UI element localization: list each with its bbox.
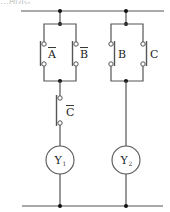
- relay-circuit-diagram: A B C Y 1: [0, 0, 170, 212]
- contact-b: B: [109, 41, 126, 66]
- coil-y1: Y 1: [46, 146, 74, 174]
- junction-dot: [58, 204, 62, 208]
- label-c: C: [150, 48, 158, 61]
- label-a: A: [47, 48, 57, 61]
- contact-c-bar: C: [57, 95, 75, 126]
- label-y2-subscript: 2: [129, 160, 133, 167]
- junction-dot: [124, 9, 128, 13]
- coil-y2: Y 2: [112, 146, 140, 174]
- contact-a-bar: A: [41, 41, 58, 66]
- branch-1: A B C Y 1: [41, 9, 89, 208]
- label-y2: Y: [120, 154, 129, 167]
- label-b-bar: B: [80, 48, 88, 61]
- contact-b-bar: B: [73, 41, 89, 66]
- branch-2: B C Y 2: [109, 9, 159, 208]
- label-y1-subscript: 1: [63, 160, 67, 167]
- junction-dot: [58, 9, 62, 13]
- label-y1: Y: [54, 154, 63, 167]
- contact-c: C: [141, 41, 159, 66]
- label-b: B: [118, 48, 126, 61]
- label-c-bar: C: [66, 106, 74, 119]
- junction-dot: [124, 204, 128, 208]
